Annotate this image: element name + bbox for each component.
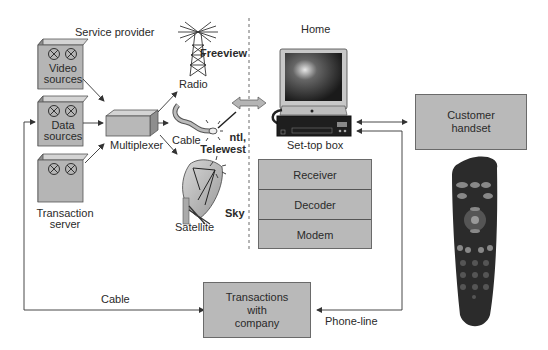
transactions-with-company-box: Transactions with company <box>203 282 311 338</box>
set-top-box-components: Receiver Decoder Modem <box>258 159 372 249</box>
home-label: Home <box>301 23 330 36</box>
multiplexer-box <box>106 110 158 136</box>
television-icon <box>273 49 347 124</box>
freeview-label: Freeview <box>200 47 247 60</box>
decoder-component: Decoder <box>259 190 371 220</box>
sky-label: Sky <box>225 207 245 220</box>
transaction-server <box>38 154 88 202</box>
set-top-box-icon <box>277 116 351 136</box>
multiplexer-label: Multiplexer <box>110 139 163 152</box>
transaction-server-label: Transaction server <box>25 208 105 230</box>
modem-component: Modem <box>259 220 371 250</box>
receiver-component: Receiver <box>259 160 371 190</box>
cable-label: Cable <box>172 134 201 147</box>
ntl-telewest-label: ntl, Telewest <box>200 131 246 155</box>
customer-handset-box: Customer handset <box>415 94 527 150</box>
set-top-box-label: Set-top box <box>287 139 343 152</box>
service-provider-label: Service provider <box>75 26 154 39</box>
satellite-dish-icon <box>183 156 226 224</box>
video-sources-label: Video sources <box>43 63 83 85</box>
radio-label: Radio <box>179 78 208 91</box>
remote-control-icon <box>452 156 497 326</box>
transaction-to-mux-arrow <box>85 144 104 163</box>
data-sources-label: Data sources <box>43 120 83 142</box>
satellite-label: Satellite <box>175 221 214 234</box>
phone-line-label: Phone-line <box>325 315 378 328</box>
cable-return-label: Cable <box>101 293 130 306</box>
